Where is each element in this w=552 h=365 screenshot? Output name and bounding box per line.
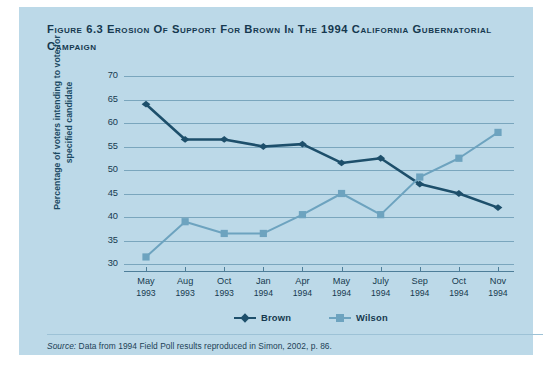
figure-panel: Figure 6.3 Erosion of Support for Brown … (19, 7, 533, 355)
source-text: Data from 1994 Field Poll results reprod… (76, 341, 332, 351)
legend-label-wilson: Wilson (356, 312, 388, 323)
data-point-wilson (142, 253, 149, 260)
data-point-wilson (182, 218, 189, 225)
source-note: Source: Data from 1994 Field Poll result… (47, 341, 527, 352)
series-line-wilson (146, 132, 498, 257)
data-point-wilson (260, 230, 267, 237)
data-point-wilson (221, 230, 228, 237)
legend-marker-brown-icon (234, 312, 256, 323)
data-point-wilson (338, 190, 345, 197)
chart-legend: Brown Wilson (234, 310, 434, 326)
data-point-wilson (299, 211, 306, 218)
data-point-wilson (416, 173, 423, 180)
legend-label-brown: Brown (261, 312, 291, 323)
figure-root: Figure 6.3 Erosion of Support for Brown … (0, 0, 552, 365)
legend-item-brown: Brown (234, 310, 291, 324)
series-line-brown (146, 104, 498, 207)
legend-marker-wilson-icon (329, 312, 351, 323)
data-point-wilson (494, 129, 501, 136)
data-point-wilson (377, 211, 384, 218)
data-point-brown (259, 143, 268, 150)
source-prefix: Source: (47, 341, 76, 351)
data-point-brown (220, 136, 229, 143)
footer-divider (47, 334, 543, 335)
data-point-wilson (455, 155, 462, 162)
legend-item-wilson: Wilson (329, 310, 388, 324)
